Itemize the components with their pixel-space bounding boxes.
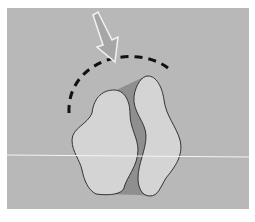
arrow-icon bbox=[93, 12, 118, 62]
left-lobe-shape bbox=[72, 90, 138, 195]
diagram-canvas bbox=[0, 0, 255, 222]
